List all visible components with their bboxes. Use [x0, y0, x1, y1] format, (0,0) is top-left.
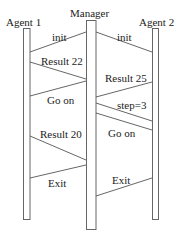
message-label: init	[117, 31, 132, 43]
message-label: init	[52, 31, 67, 43]
lifeline-agent1	[24, 29, 31, 220]
message-label: Go on	[47, 94, 75, 106]
message-go-on-agent1: Go on	[30, 81, 86, 106]
message-exit-agent2: Exit	[96, 174, 152, 196]
message-label: Exit	[48, 177, 66, 189]
message-init-agent1: init	[30, 31, 86, 52]
message-init-agent2: init	[96, 31, 152, 52]
message-label: Result 22	[41, 55, 83, 67]
sequence-diagram: Agent 1 Manager Agent 2 init init Result…	[0, 0, 183, 240]
message-step-3: step=3	[96, 99, 152, 121]
participant-label-agent1: Agent 1	[6, 16, 41, 28]
message-label: Result 20	[40, 128, 82, 140]
message-label: Exit	[112, 174, 130, 186]
message-result-22: Result 22	[30, 55, 86, 79]
message-result-25: Result 25	[96, 72, 152, 97]
message-exit-agent1: Exit	[30, 165, 86, 189]
lifeline-agent2	[153, 29, 159, 220]
message-result-20: Result 20	[30, 128, 86, 160]
lifeline-manager	[87, 21, 97, 230]
participant-label-agent2: Agent 2	[139, 16, 174, 28]
message-line	[96, 82, 152, 97]
message-label: Result 25	[105, 72, 147, 84]
participant-label-manager: Manager	[70, 7, 109, 19]
message-go-on-agent2: Go on	[96, 113, 152, 139]
message-label: step=3	[117, 99, 147, 111]
message-label: Go on	[108, 127, 136, 139]
